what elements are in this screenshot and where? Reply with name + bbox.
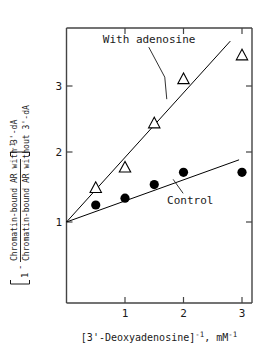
y-tick-label-3: 3 (55, 80, 62, 93)
ylabel-sub-one: 1 (20, 273, 30, 278)
bracket-open-icon (11, 280, 30, 284)
data-point-control (91, 200, 100, 209)
xlabel-comma: , mM (204, 332, 228, 343)
xlabel-main: [3'-Deoxyadenosine] (81, 332, 195, 343)
data-point-with-adenosine (178, 73, 189, 84)
annotation-with-adenosine: With adenosine (103, 33, 196, 99)
control-label: Control (167, 194, 213, 207)
y-axis-tick-labels: 1 2 3 (55, 80, 62, 229)
data-point-control (120, 194, 129, 203)
data-point-control (237, 168, 246, 177)
with-adenosine-leader-line (149, 47, 167, 99)
x-axis-label-group: [3'-Deoxyadenosine]-1, mM-1 (81, 330, 237, 343)
x-axis-label: [3'-Deoxyadenosine]-1, mM-1 (81, 330, 237, 343)
ylabel-numerator: Chromatin-bound AR with 3'-dA (9, 120, 19, 261)
x-tick-label-3: 3 (239, 307, 246, 320)
y-axis-label-rotated: 1 - Chromatin-bound AR with 3'-dA Chroma… (8, 105, 31, 284)
data-point-with-adenosine (119, 161, 130, 172)
x-axis-tick-labels: 1 2 3 (122, 307, 246, 320)
y-tick-label-2: 2 (55, 146, 62, 159)
data-point-with-adenosine (236, 49, 247, 60)
ylabel-exponent: -1 (8, 142, 17, 151)
x-tick-label-1: 1 (122, 307, 129, 320)
data-point-with-adenosine (149, 117, 160, 128)
with-adenosine-label: With adenosine (103, 33, 196, 46)
x-tick-label-2: 2 (180, 307, 187, 320)
ylabel-minus: - (15, 265, 25, 270)
xlabel-exp1: -1 (195, 330, 204, 339)
y-axis-label-group: 1 - Chromatin-bound AR with 3'-dA Chroma… (8, 105, 31, 284)
ylabel-denominator: Chromatin-bound AR without 3'-dA (21, 105, 31, 261)
xlabel-exp2: -1 (228, 330, 237, 339)
y-tick-label-1: 1 (55, 216, 62, 229)
figure-container: 1 - Chromatin-bound AR with 3'-dA Chroma… (0, 0, 271, 355)
data-point-with-adenosine (90, 182, 101, 193)
data-point-control (150, 180, 159, 189)
data-point-control (179, 168, 188, 177)
scatter-plot: 1 - Chromatin-bound AR with 3'-dA Chroma… (0, 0, 271, 355)
